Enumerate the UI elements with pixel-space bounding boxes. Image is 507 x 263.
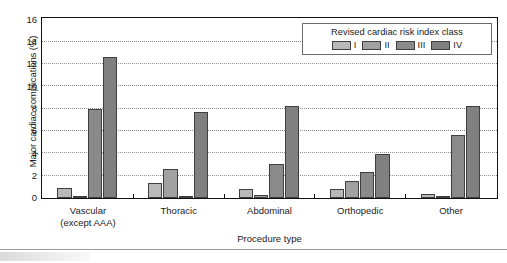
bar — [466, 106, 480, 198]
legend-swatch-icon — [332, 41, 351, 50]
x-category-label: Orthopedic — [337, 205, 383, 217]
bar — [285, 106, 299, 198]
legend-swatch-icon — [431, 41, 450, 50]
legend-title: Revised cardiac risk index class — [307, 27, 487, 37]
bar — [148, 183, 162, 198]
y-tick-label: 2 — [9, 170, 37, 181]
y-tick-label: 0 — [9, 192, 37, 203]
legend-label: IV — [453, 40, 462, 50]
x-category-label: Other — [439, 205, 463, 217]
bar — [194, 112, 208, 198]
legend-label: II — [384, 40, 389, 50]
x-category-label: Vascular(except AAA) — [60, 205, 115, 229]
legend-item: IV — [431, 40, 462, 50]
bar — [88, 109, 102, 198]
x-tick-mark — [405, 194, 406, 198]
legend: Revised cardiac risk index class IIIIIII… — [302, 23, 492, 55]
bar — [103, 57, 117, 198]
x-tick-mark — [224, 194, 225, 198]
legend-item: II — [362, 40, 389, 50]
x-category-label: Abdominal — [247, 205, 292, 217]
bar — [239, 189, 253, 198]
x-category-label: Thoracic — [161, 205, 197, 217]
legend-label: I — [354, 40, 357, 50]
bar — [269, 164, 283, 198]
bar — [421, 194, 435, 198]
bar — [73, 196, 87, 198]
bar — [436, 196, 450, 198]
bar — [451, 135, 465, 198]
y-axis-tick-labels: 0246810121416 — [5, 17, 37, 199]
caption-divider — [0, 249, 507, 250]
bar — [345, 181, 359, 198]
y-tick-label: 12 — [9, 58, 37, 69]
y-tick-label: 4 — [9, 147, 37, 158]
y-tick-label: 16 — [9, 13, 37, 24]
bar — [375, 154, 389, 198]
y-tick-label: 10 — [9, 80, 37, 91]
legend-swatch-icon — [362, 41, 381, 50]
bar — [330, 189, 344, 198]
legend-items: IIIIIIIV — [307, 40, 487, 50]
bar — [360, 172, 374, 198]
bar — [57, 188, 71, 198]
x-axis-title: Procedure type — [41, 233, 498, 244]
y-tick-label: 6 — [9, 125, 37, 136]
x-tick-mark — [314, 194, 315, 198]
legend-label: III — [418, 40, 426, 50]
legend-item: I — [332, 40, 357, 50]
bar — [254, 195, 268, 198]
chart-figure: Major cardiac complications (%) 02468101… — [0, 0, 507, 263]
legend-swatch-icon — [396, 41, 415, 50]
y-tick-label: 14 — [9, 35, 37, 46]
bar — [163, 169, 177, 198]
legend-item: III — [396, 40, 426, 50]
x-tick-mark — [133, 194, 134, 198]
caption-artifact — [0, 252, 90, 261]
y-tick-label: 8 — [9, 103, 37, 114]
bar — [179, 196, 193, 198]
